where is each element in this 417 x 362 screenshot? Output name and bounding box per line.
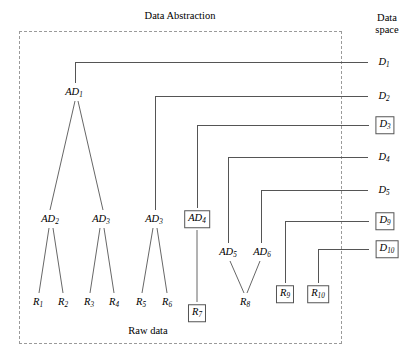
data-space-caption: Data space: [375, 12, 398, 36]
node-label-subscript: 3: [387, 124, 391, 132]
abstraction-node-ad4: AD4: [184, 210, 210, 228]
raw-node-r10: R10: [307, 285, 329, 303]
node-label-base: AD: [188, 212, 202, 223]
raw-data-caption: Raw data: [128, 325, 167, 337]
dataspace-node-d2: D2: [378, 91, 389, 102]
node-label-subscript: 4: [115, 301, 119, 309]
node-label-base: AD: [253, 246, 267, 257]
node-label-subscript: 8: [246, 301, 250, 309]
tree-edge-ad5t-r5: [142, 228, 153, 293]
node-label-subscript: 4: [386, 156, 390, 164]
node-label-base: AD: [219, 246, 233, 257]
tree-edge-ad3-r3: [90, 228, 100, 293]
dataspace-node-d9: D9: [375, 212, 394, 230]
tree-edge-ad1-ad2: [50, 101, 75, 210]
node-label-subscript: 1: [39, 301, 43, 309]
raw-node-r2: R2: [58, 297, 68, 308]
node-label-subscript: 6: [168, 301, 172, 309]
node-label-subscript: 5: [386, 189, 390, 197]
node-label-subscript: 5: [233, 251, 237, 259]
raw-node-r4: R4: [109, 297, 119, 308]
node-label-base: AD: [65, 86, 79, 97]
dataspace-node-d4: D4: [378, 152, 389, 163]
node-label-subscript: 9: [286, 293, 290, 301]
figure-canvas: Data Abstraction Raw data Data space AD1…: [0, 0, 417, 362]
node-label-subscript: 2: [55, 218, 59, 226]
node-label-base: AD: [92, 213, 106, 224]
raw-node-r9: R9: [276, 285, 294, 303]
dataspace-node-d3: D3: [375, 116, 394, 134]
dataspace-node-d10: D10: [376, 240, 399, 258]
raw-node-r1: R1: [33, 297, 43, 308]
raw-node-r8: R8: [240, 297, 250, 308]
dataspace-node-d5: D5: [378, 185, 389, 196]
tree-edge-ad5-r8: [230, 261, 244, 293]
node-label-subscript: 3: [159, 218, 163, 226]
raw-node-r7: R7: [188, 304, 206, 322]
node-label-base: D: [379, 214, 387, 225]
raw-node-r6: R6: [162, 297, 172, 308]
node-label-subscript: 2: [386, 95, 390, 103]
node-label-base: D: [378, 56, 386, 67]
tree-edge-ad2-r1: [39, 228, 49, 293]
abstraction-node-ad5: AD5: [219, 247, 237, 258]
node-label-subscript: 5: [142, 301, 146, 309]
abstraction-node-ad1: AD1: [65, 87, 83, 98]
tree-edge-ad6-r8: [247, 261, 260, 293]
abstraction-node-ad5t: AD3: [145, 214, 163, 225]
node-label-subscript: 2: [64, 301, 68, 309]
node-label-subscript: 9: [387, 220, 391, 228]
tree-edge-ad1-ad3: [78, 101, 103, 210]
node-label-subscript: 10: [387, 248, 394, 256]
node-label-subscript: 6: [267, 251, 271, 259]
node-label-subscript: 10: [318, 293, 325, 301]
connector-lines: [0, 0, 417, 362]
tree-edge-ad2-r2: [53, 228, 63, 293]
node-label-base: D: [378, 184, 386, 195]
figure-title: Data Abstraction: [145, 10, 216, 22]
node-label-base: D: [378, 151, 386, 162]
node-label-subscript: 3: [90, 301, 94, 309]
node-label-base: D: [378, 90, 386, 101]
abstraction-node-ad2: AD2: [41, 214, 59, 225]
node-label-base: D: [380, 242, 388, 253]
abstraction-node-ad3: AD3: [92, 214, 110, 225]
node-label-subscript: 1: [79, 91, 83, 99]
node-label-subscript: 1: [386, 61, 390, 69]
raw-node-r3: R3: [84, 297, 94, 308]
node-label-base: AD: [41, 213, 55, 224]
raw-node-r5: R5: [136, 297, 146, 308]
tree-edge-ad3-r4: [104, 228, 114, 293]
node-label-base: AD: [145, 213, 159, 224]
node-label-subscript: 4: [202, 218, 206, 226]
node-label-subscript: 3: [106, 218, 110, 226]
node-label-base: D: [379, 118, 387, 129]
abstraction-node-ad6: AD6: [253, 247, 271, 258]
data-space-caption-line1: Data: [377, 12, 397, 23]
node-label-subscript: 7: [198, 312, 202, 320]
dataspace-node-d1: D1: [378, 57, 389, 68]
tree-edge-ad5t-r6: [157, 228, 167, 293]
data-space-caption-line2: space: [375, 24, 398, 35]
